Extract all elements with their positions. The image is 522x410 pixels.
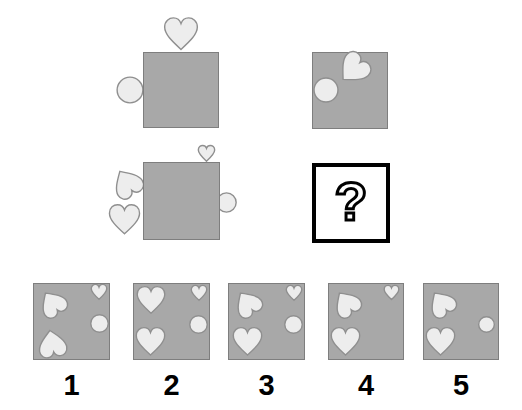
question-box: ? xyxy=(312,163,390,243)
stimulus-middle-left xyxy=(143,162,220,240)
circle-icon xyxy=(478,316,495,333)
heart-icon xyxy=(135,284,167,318)
option-3-label: 3 xyxy=(228,371,305,400)
option-1-label: 1 xyxy=(33,371,110,400)
circle-icon xyxy=(90,314,109,333)
heart-icon xyxy=(90,283,108,302)
option-5-label: 5 xyxy=(423,371,499,400)
stimulus-top-left xyxy=(143,52,219,128)
heart-icon xyxy=(285,284,303,303)
option-2-label: 2 xyxy=(133,371,210,400)
heart-icon xyxy=(383,284,400,302)
heart-icon xyxy=(231,326,264,359)
heart-icon xyxy=(329,326,362,359)
heart-icon xyxy=(197,144,216,164)
puzzle-canvas: ? 1 2 3 4 5 xyxy=(0,0,522,410)
heart-icon xyxy=(190,284,208,303)
heart-icon xyxy=(107,203,142,238)
heart-icon xyxy=(134,326,167,359)
question-mark: ? xyxy=(335,174,368,228)
circle-icon xyxy=(313,77,339,103)
heart-icon xyxy=(162,15,200,55)
option-4-label: 4 xyxy=(328,371,404,400)
heart-icon xyxy=(424,326,457,359)
heart-icon xyxy=(33,323,70,361)
circle-icon xyxy=(284,315,303,334)
circle-icon xyxy=(189,315,208,334)
circle-icon xyxy=(116,76,144,104)
